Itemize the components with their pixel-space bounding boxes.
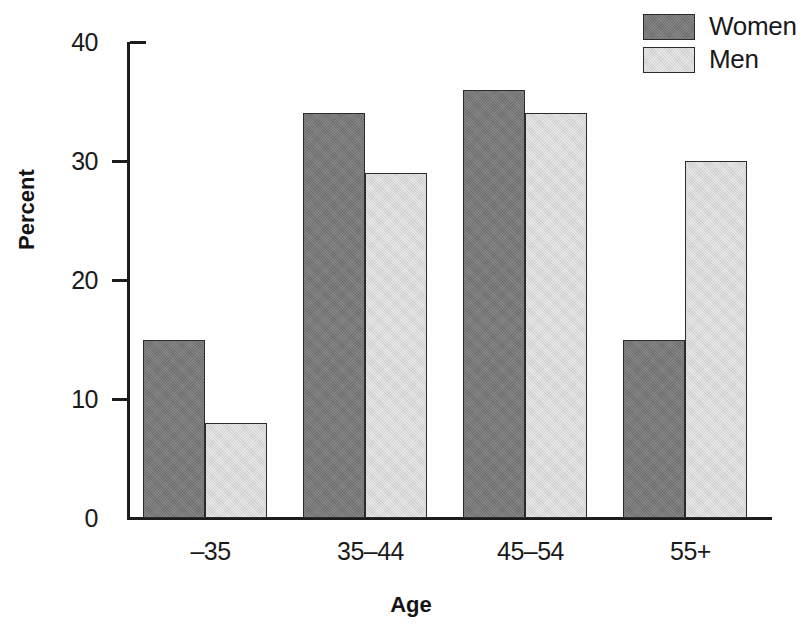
- y-axis-title: Percent: [14, 206, 40, 250]
- x-axis-category-label-35-44: 35–44: [303, 537, 438, 566]
- legend-entry-men[interactable]: Men: [643, 43, 797, 76]
- bar-women-under-35[interactable]: [143, 340, 205, 519]
- x-axis-title: Age: [0, 592, 804, 618]
- plot-area: [130, 42, 772, 518]
- legend-entry-women[interactable]: Women: [643, 10, 797, 43]
- x-axis-category-label-45-54: 45–54: [463, 537, 598, 566]
- bar-women-35-44[interactable]: [303, 113, 365, 518]
- y-axis-tick-label-40: 40: [71, 28, 98, 57]
- bar-group-35-44: [290, 42, 450, 518]
- bar-group-under-35: [130, 42, 290, 518]
- legend-swatch-women-icon: [643, 14, 695, 40]
- bar-women-55-plus[interactable]: [623, 340, 685, 519]
- bar-men-under-35[interactable]: [205, 423, 267, 518]
- legend-label-men: Men: [709, 44, 759, 75]
- y-axis-tick-label-10: 10: [71, 385, 98, 414]
- bar-men-35-44[interactable]: [365, 173, 427, 518]
- y-axis-tick-10: [112, 398, 128, 401]
- y-axis-tick-label-30: 30: [71, 147, 98, 176]
- y-axis-tick-30: [112, 160, 128, 163]
- y-axis-tick-label-0: 0: [85, 504, 98, 533]
- bar-men-55-plus[interactable]: [685, 161, 747, 518]
- legend: Women Men: [643, 10, 797, 76]
- x-axis-category-label-55-plus: 55+: [623, 537, 758, 566]
- y-axis-tick-label-20: 20: [71, 266, 98, 295]
- y-axis-tick-20: [112, 279, 128, 282]
- bar-women-45-54[interactable]: [463, 90, 525, 518]
- bar-group-45-54: [450, 42, 610, 518]
- legend-swatch-men-icon: [643, 47, 695, 73]
- x-axis-title-text: Age: [390, 592, 432, 617]
- bar-chart-figure: Percent 0 10 20 30 40 –35 35–44 45–54: [0, 0, 804, 638]
- x-axis-category-label-under-35: –35: [143, 537, 278, 566]
- legend-label-women: Women: [709, 11, 797, 42]
- bar-men-45-54[interactable]: [525, 113, 587, 518]
- bar-group-55-plus: [610, 42, 770, 518]
